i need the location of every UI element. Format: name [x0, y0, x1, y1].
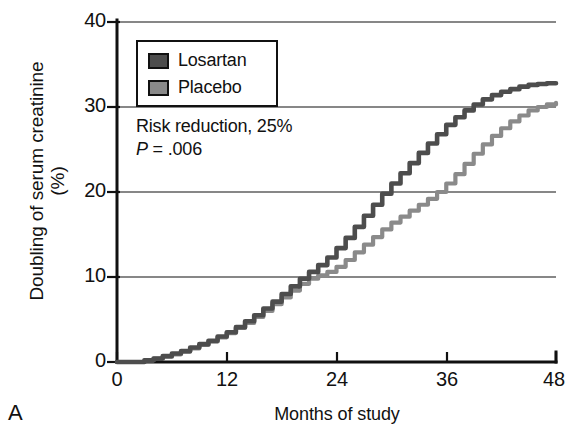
x-tick-12: 12	[197, 368, 257, 391]
legend-item-placebo: Placebo	[148, 74, 276, 101]
x-tick-36: 36	[417, 368, 477, 391]
annotation-p-value: P = .006	[136, 138, 292, 161]
x-tick-48: 48	[524, 368, 569, 391]
legend-swatch-losartan	[148, 53, 169, 69]
legend-label-losartan: Losartan	[178, 50, 246, 71]
annotation-risk-reduction: Risk reduction, 25%	[136, 115, 292, 138]
annotation-p-rest: = .006	[148, 139, 202, 159]
annotation-p-symbol: P	[136, 139, 148, 159]
x-axis-title: Months of study	[117, 404, 557, 425]
legend-swatch-placebo	[148, 80, 169, 96]
chart-annotation: Risk reduction, 25% P = .006	[136, 115, 292, 161]
x-tick-0: 0	[87, 368, 147, 391]
legend-item-losartan: Losartan	[148, 47, 276, 74]
x-tick-24: 24	[307, 368, 367, 391]
panel-letter: A	[8, 400, 23, 426]
chart-legend: Losartan Placebo	[136, 40, 278, 107]
legend-label-placebo: Placebo	[178, 77, 242, 98]
